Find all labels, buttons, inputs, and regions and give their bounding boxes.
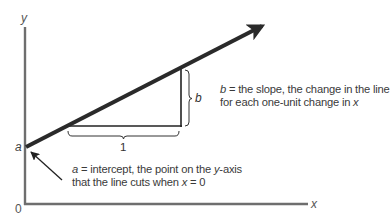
intercept-annotation-line1-end: -axis xyxy=(219,163,242,175)
intercept-annotation-line2-end: = 0 xyxy=(187,176,205,188)
y-axis-label: y xyxy=(21,12,27,24)
run-bracket-label: 1 xyxy=(120,142,126,154)
intercept-annotation-line1: = intercept, the point on the xyxy=(78,163,214,175)
slope-annotation-line2-var: x xyxy=(353,96,358,108)
intercept-annotation: a = intercept, the point on the y-axis t… xyxy=(72,164,242,190)
rise-bracket-label: b xyxy=(195,92,202,104)
slope-annotation-line2: for each one-unit change in xyxy=(220,96,353,108)
run-bracket xyxy=(68,131,179,139)
intercept-pointer-arrow xyxy=(31,152,62,180)
x-axis-label: x xyxy=(311,198,317,210)
slope-annotation: b = the slope, the change in the line fo… xyxy=(220,84,390,110)
origin-label: 0 xyxy=(15,203,22,215)
rise-bracket xyxy=(185,70,192,126)
intercept-annotation-line2: that the line cuts when xyxy=(72,176,182,188)
slope-annotation-line1: = the slope, the change in the line xyxy=(226,83,390,95)
intercept-point-label: a xyxy=(15,141,22,153)
